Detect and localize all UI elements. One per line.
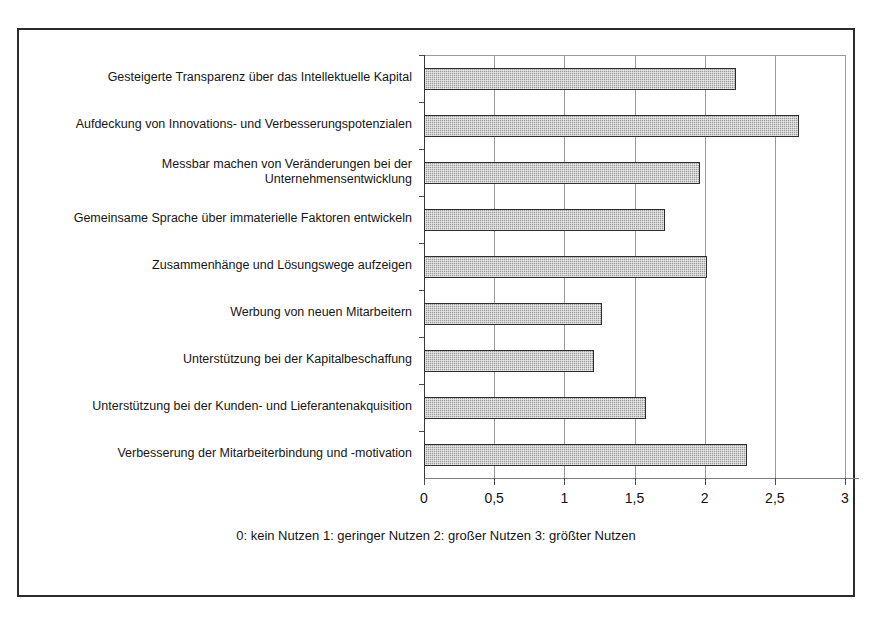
bar-row bbox=[424, 162, 845, 184]
bar-row bbox=[424, 444, 845, 466]
category-label: Zusammenhänge und Lösungswege aufzeigen bbox=[19, 258, 412, 273]
bar-row bbox=[424, 397, 845, 419]
x-tick bbox=[424, 478, 425, 485]
category-tick bbox=[419, 196, 424, 197]
x-tick bbox=[564, 478, 565, 485]
bar-row bbox=[424, 303, 845, 325]
category-tick bbox=[419, 384, 424, 385]
scale-legend-caption: 0: kein Nutzen 1: geringer Nutzen 2: gro… bbox=[19, 528, 853, 543]
x-tick-label: 0 bbox=[420, 490, 428, 506]
x-tick-label: 2 bbox=[701, 490, 709, 506]
bar-row bbox=[424, 209, 845, 231]
bar-row bbox=[424, 68, 845, 90]
gridline-3 bbox=[845, 55, 846, 478]
category-label: Unterstützung bei der Kapitalbeschaffung bbox=[19, 352, 412, 367]
bar[interactable] bbox=[424, 209, 665, 231]
x-tick bbox=[494, 478, 495, 485]
category-tick bbox=[419, 431, 424, 432]
bar-row bbox=[424, 256, 845, 278]
category-tick bbox=[419, 102, 424, 103]
category-tick bbox=[419, 337, 424, 338]
x-axis-line bbox=[424, 478, 859, 479]
x-tick-label: 0,5 bbox=[484, 490, 503, 506]
x-tick-label: 1,5 bbox=[625, 490, 644, 506]
x-tick bbox=[705, 478, 706, 485]
bar[interactable] bbox=[424, 162, 700, 184]
bar[interactable] bbox=[424, 444, 747, 466]
category-label: Messbar machen von Veränderungen bei der… bbox=[19, 157, 412, 187]
x-tick bbox=[775, 478, 776, 485]
bar-row bbox=[424, 350, 845, 372]
bar-row bbox=[424, 115, 845, 137]
category-label: Unterstützung bei der Kunden- und Liefer… bbox=[19, 399, 412, 414]
x-tick bbox=[845, 478, 846, 485]
x-tick-label: 2,5 bbox=[765, 490, 784, 506]
bar[interactable] bbox=[424, 350, 594, 372]
category-label: Gesteigerte Transparenz über das Intelle… bbox=[19, 70, 412, 85]
category-tick bbox=[419, 290, 424, 291]
bar[interactable] bbox=[424, 303, 602, 325]
category-tick bbox=[419, 149, 424, 150]
x-tick bbox=[635, 478, 636, 485]
category-tick bbox=[419, 55, 424, 56]
x-tick-label: 1 bbox=[560, 490, 568, 506]
bar[interactable] bbox=[424, 256, 707, 278]
x-tick-label: 3 bbox=[841, 490, 849, 506]
category-label: Werbung von neuen Mitarbeitern bbox=[19, 305, 412, 320]
chart-frame: 0: kein Nutzen 1: geringer Nutzen 2: gro… bbox=[17, 28, 855, 597]
category-label: Gemeinsame Sprache über immaterielle Fak… bbox=[19, 211, 412, 226]
bar[interactable] bbox=[424, 68, 736, 90]
bar[interactable] bbox=[424, 115, 799, 137]
bar[interactable] bbox=[424, 397, 646, 419]
category-label: Aufdeckung von Innovations- und Verbesse… bbox=[19, 117, 412, 132]
category-label: Verbesserung der Mitarbeiterbindung und … bbox=[19, 446, 412, 461]
category-tick bbox=[419, 243, 424, 244]
